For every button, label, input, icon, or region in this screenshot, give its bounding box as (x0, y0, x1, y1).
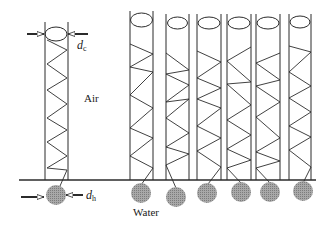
dc-subscript: c (83, 44, 87, 53)
water-droplet (46, 185, 66, 205)
zigzag-contact-line (166, 53, 189, 165)
dh-label: dh (86, 189, 96, 203)
water-droplet (293, 181, 313, 201)
column-opening-ellipse (168, 17, 188, 29)
neck-line (141, 168, 153, 185)
air-label-text: Air (84, 92, 99, 104)
water-droplet (131, 183, 151, 203)
zigzag-contact-line (256, 53, 280, 168)
water-droplet (260, 182, 280, 202)
capillary-column-3 (197, 14, 221, 203)
dh-subscript: h (92, 194, 96, 203)
neck-line (60, 170, 67, 186)
water-label: Water (133, 207, 159, 218)
column-opening-ellipse (228, 17, 250, 29)
column-opening-ellipse (290, 16, 310, 28)
neck-line (208, 167, 221, 184)
water-droplet (197, 183, 217, 203)
zigzag-contact-line (227, 47, 251, 168)
column-opening-ellipse (45, 27, 67, 41)
zigzag-contact-line (130, 44, 153, 168)
water-droplet (231, 182, 251, 202)
dc-label: dc (77, 39, 87, 53)
column-bundle (130, 11, 313, 207)
zigzag-contact-line (47, 40, 67, 170)
capillary-bundle-diagram (0, 0, 330, 227)
neck-line (166, 165, 176, 188)
column-opening-ellipse (198, 17, 220, 29)
capillary-column (45, 22, 68, 205)
column-opening-ellipse (257, 17, 279, 29)
zigzag-contact-line (197, 51, 221, 167)
water-droplet (166, 187, 186, 207)
capillary-column-4 (227, 14, 251, 202)
capillary-column-1 (130, 11, 153, 203)
capillary-column-2 (166, 14, 189, 207)
water-label-text: Water (133, 206, 159, 218)
capillary-column-5 (256, 14, 280, 202)
capillary-column-6 (289, 14, 313, 201)
zigzag-contact-line (289, 46, 311, 167)
air-label: Air (84, 93, 99, 104)
column-opening-ellipse (131, 13, 153, 27)
